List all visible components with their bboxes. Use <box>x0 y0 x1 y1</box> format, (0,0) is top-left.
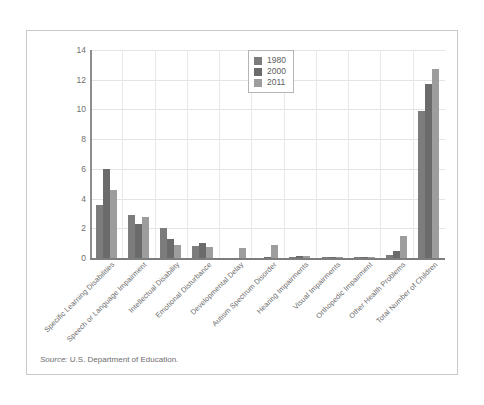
legend-swatch <box>254 57 262 65</box>
bar-group <box>322 50 343 258</box>
bar-group <box>128 50 149 258</box>
x-axis-label: Total Number of Children <box>374 260 439 325</box>
bar <box>206 247 213 258</box>
x-axis-label: Autism Spectrum Disorder <box>210 260 278 328</box>
legend-label: 1980 <box>267 56 286 65</box>
bar-group <box>418 50 439 258</box>
bar <box>192 246 199 258</box>
gridline-vertical <box>316 50 317 258</box>
gridline-vertical <box>187 50 188 258</box>
bar <box>142 217 149 258</box>
bar <box>425 84 432 258</box>
y-axis-tick-label: 0 <box>60 254 86 263</box>
legend-swatch <box>254 68 262 76</box>
source-divider <box>27 345 457 346</box>
bar <box>271 245 278 258</box>
y-axis-line <box>90 50 92 259</box>
chart-legend: 198020002011 <box>248 50 294 93</box>
bar <box>432 69 439 258</box>
x-axis-label: Other Health Problems <box>347 260 407 320</box>
gridline-vertical <box>413 50 414 258</box>
bar-group <box>96 50 117 258</box>
y-axis-tick-label: 4 <box>60 195 86 204</box>
y-axis-tick-label: 10 <box>60 105 86 114</box>
bar <box>239 248 246 258</box>
bar <box>135 224 142 258</box>
source-note: Source: U.S. Department of Education. <box>40 355 178 364</box>
y-axis-tick-label: 14 <box>60 46 86 55</box>
bar <box>103 169 110 258</box>
bar-group <box>225 50 246 258</box>
legend-label: 2000 <box>267 67 286 76</box>
x-axis-label: Emotional Disturbance <box>154 260 214 320</box>
bar-group <box>160 50 181 258</box>
y-axis-tick-label: 8 <box>60 135 86 144</box>
bar-group <box>386 50 407 258</box>
bar-group <box>192 50 213 258</box>
bar <box>167 239 174 258</box>
legend-item: 2011 <box>254 77 286 88</box>
bar <box>128 215 135 258</box>
gridline-vertical <box>219 50 220 258</box>
source-label: Source: <box>40 355 68 364</box>
legend-item: 2000 <box>254 66 286 77</box>
gridline-vertical <box>122 50 123 258</box>
y-axis-tick-label: 2 <box>60 224 86 233</box>
bar <box>174 245 181 258</box>
legend-item: 1980 <box>254 55 286 66</box>
bar <box>393 251 400 258</box>
y-axis-tick-label: 6 <box>60 165 86 174</box>
bar <box>199 243 206 258</box>
bar <box>160 228 167 258</box>
bar <box>110 190 117 258</box>
y-axis-tick-label: 12 <box>60 76 86 85</box>
legend-swatch <box>254 79 262 87</box>
legend-label: 2011 <box>267 78 285 87</box>
gridline-vertical <box>380 50 381 258</box>
source-text: U.S. Department of Education. <box>68 355 179 364</box>
y-axis-tick-labels: 02468101214 <box>58 50 86 258</box>
bar <box>96 205 103 258</box>
bar <box>418 111 425 258</box>
x-axis-label: Orthopedic Impairment <box>314 260 374 320</box>
bar <box>400 236 407 258</box>
gridline-vertical <box>155 50 156 258</box>
gridline-vertical <box>348 50 349 258</box>
bar-group <box>354 50 375 258</box>
